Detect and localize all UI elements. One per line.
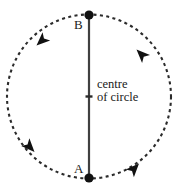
centre-of-circle-label: centre of circle bbox=[97, 78, 138, 104]
circle-diagram: B A centre of circle bbox=[0, 0, 181, 194]
point-a-dot-icon bbox=[84, 173, 93, 182]
point-a-label: A bbox=[74, 162, 83, 176]
point-b-dot-icon bbox=[84, 10, 93, 19]
circle-diagram-canvas bbox=[0, 0, 181, 194]
point-b-label: B bbox=[74, 18, 83, 32]
centre-label-line-2: of circle bbox=[97, 91, 138, 104]
